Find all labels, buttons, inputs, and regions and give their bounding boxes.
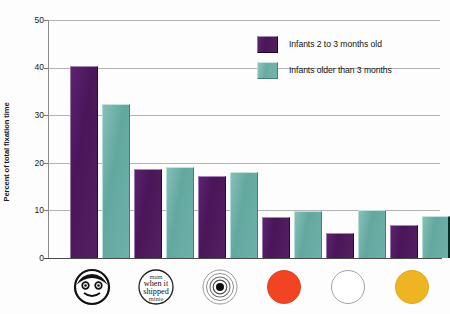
- bar-text-older: [166, 167, 194, 258]
- gridline-50: [48, 20, 440, 21]
- x-axis-icons: mum when it shipped minte: [0, 263, 450, 314]
- y-tick-20: 20: [24, 159, 44, 168]
- bar-red-older: [294, 211, 322, 258]
- legend-swatch-purple-icon: [257, 36, 278, 53]
- bar-yellow-older: [422, 216, 450, 258]
- y-tick-40: 40: [24, 63, 44, 72]
- legend-swatch-teal-icon: [257, 62, 278, 79]
- bar-face-older: [102, 104, 130, 258]
- bar-yellow-young: [390, 225, 418, 258]
- bar-bullseye-young: [198, 176, 226, 258]
- x-axis-line: [44, 258, 442, 259]
- bar-text-young: [134, 169, 162, 258]
- bar-white-young: [326, 233, 354, 258]
- bar-bullseye-older: [230, 172, 258, 258]
- legend-label-young: Infants 2 to 3 months old: [289, 39, 382, 49]
- y-tick-50: 50: [24, 16, 44, 25]
- chart-legend: Infants 2 to 3 months old Infants older …: [257, 31, 447, 83]
- scrambled-text-icon: mum when it shipped minte: [134, 265, 178, 309]
- red-disk-icon: [262, 265, 306, 309]
- bar-face-young: [70, 66, 98, 258]
- bullseye-icon: [198, 265, 242, 309]
- y-axis-title: Percent of total fixation time: [2, 72, 11, 232]
- bar-white-older: [358, 210, 386, 258]
- legend-item-older: Infants older than 3 months: [257, 57, 447, 83]
- bar-chart: Percent of total fixation time 50 40 30 …: [0, 0, 450, 314]
- y-tick-0: 0: [24, 254, 44, 263]
- y-tick-30: 30: [24, 111, 44, 120]
- schematic-face-icon: [70, 265, 114, 309]
- bar-red-young: [262, 217, 290, 258]
- y-tick-10: 10: [24, 206, 44, 215]
- yellow-disk-icon: [390, 265, 434, 309]
- legend-item-young: Infants 2 to 3 months old: [257, 31, 447, 57]
- legend-label-older: Infants older than 3 months: [289, 65, 392, 75]
- svg-text:minte: minte: [149, 295, 164, 302]
- white-disk-icon: [326, 265, 370, 309]
